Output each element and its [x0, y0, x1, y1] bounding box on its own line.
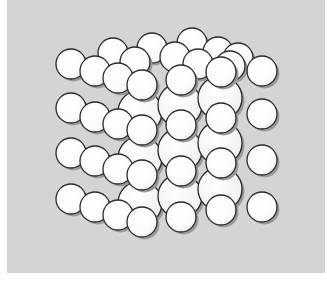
- sphere-lattice-diagram: [0, 0, 327, 282]
- front-sphere: [247, 192, 280, 225]
- front-sphere: [247, 145, 280, 178]
- front-sphere: [247, 56, 280, 89]
- bottom-margin: [0, 273, 327, 282]
- front-sphere: [247, 99, 280, 132]
